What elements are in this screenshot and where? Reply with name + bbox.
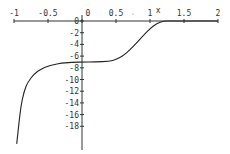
x-tick-label: -1	[9, 9, 19, 18]
function-plot: -1-0.500.511.52x0-2-4-6-8-10-12-14-16-18	[0, 0, 230, 154]
y-tick-label: 0	[74, 17, 79, 26]
y-tick-label: -12	[65, 87, 80, 96]
y-tick-label: -2	[69, 29, 79, 38]
function-curve	[17, 21, 218, 144]
y-tick-label: -4	[69, 40, 79, 49]
x-tick-label: 0.5	[109, 9, 124, 18]
x-tick-label: -0.5	[38, 9, 57, 18]
x-axis-label: x	[156, 6, 161, 15]
x-tick-label: 1.5	[177, 9, 192, 18]
marker-dot	[133, 14, 134, 15]
y-tick-label: -16	[65, 111, 80, 120]
y-tick-label: -8	[69, 64, 79, 73]
y-tick-label: -18	[65, 122, 80, 131]
y-tick-label: -6	[69, 52, 79, 61]
y-tick-label: -14	[65, 99, 80, 108]
x-tick-label: 1	[148, 9, 153, 18]
x-tick-label: 0	[86, 9, 91, 18]
x-tick-label: 2	[216, 9, 221, 18]
y-tick-label: -10	[65, 76, 80, 85]
